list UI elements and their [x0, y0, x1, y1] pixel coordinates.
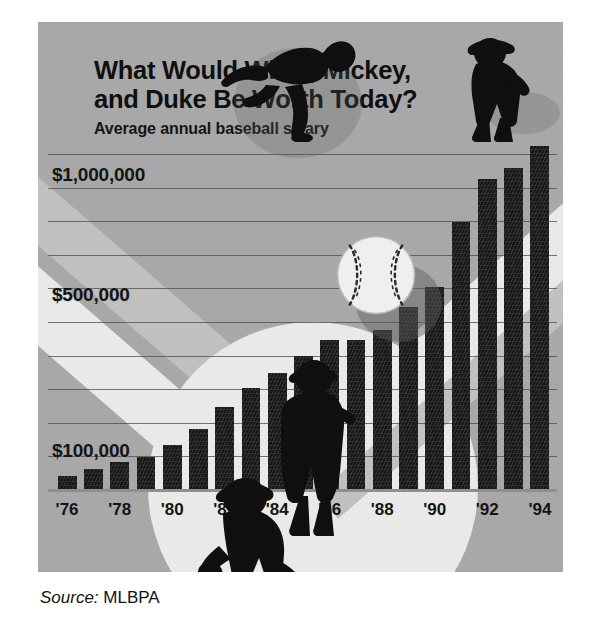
x-axis-tick-label: '82 — [213, 500, 236, 520]
bar — [110, 462, 129, 490]
x-axis-tick-label: '94 — [528, 500, 551, 520]
x-axis-baseline — [48, 489, 557, 492]
bar — [58, 476, 77, 490]
baseball-icon — [335, 234, 417, 316]
bar — [425, 287, 444, 490]
x-axis-tick-label: '90 — [423, 500, 446, 520]
source-label: Source: — [40, 588, 99, 607]
bar — [242, 388, 261, 490]
bar — [399, 307, 418, 490]
bar — [163, 445, 182, 490]
bar — [504, 168, 523, 490]
x-axis-tick-label: '80 — [161, 500, 184, 520]
source-line: Source: MLBPA — [40, 588, 160, 608]
bar — [530, 146, 549, 490]
x-axis-tick-label: '86 — [318, 500, 341, 520]
x-axis-tick-label: '76 — [56, 500, 79, 520]
chart-panel: $100,000$500,000$1,000,000 '76'78'80'82'… — [38, 22, 563, 572]
bar — [347, 340, 366, 490]
title-block: What Would Willie, Mickey, and Duke Be W… — [94, 56, 454, 138]
infographic-root: $100,000$500,000$1,000,000 '76'78'80'82'… — [0, 0, 591, 632]
bar — [320, 340, 339, 490]
bar — [137, 457, 156, 490]
bar — [268, 373, 287, 491]
x-axis-tick-label: '84 — [266, 500, 289, 520]
bar — [215, 407, 234, 490]
page-title: What Would Willie, Mickey, and Duke Be W… — [94, 56, 454, 113]
source-value: MLBPA — [103, 588, 159, 607]
bar — [373, 330, 392, 490]
bar — [452, 222, 471, 490]
bar — [478, 179, 497, 490]
x-axis-tick-label: '88 — [371, 500, 394, 520]
x-axis-tick-label: '92 — [476, 500, 499, 520]
chart-subtitle: Average annual baseball salary — [94, 120, 454, 138]
bar — [189, 429, 208, 490]
bar — [84, 469, 103, 490]
x-axis-tick-label: '78 — [108, 500, 131, 520]
bar — [294, 356, 313, 490]
